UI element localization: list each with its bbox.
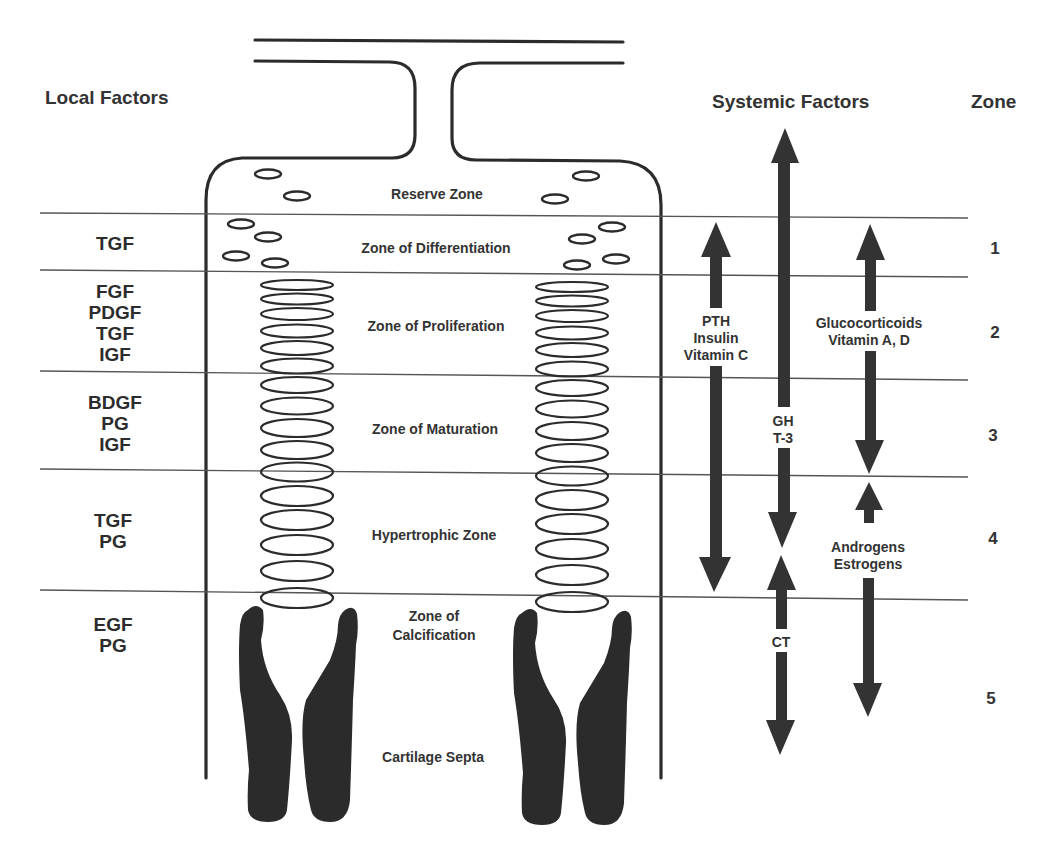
zone-number-2: 2 [990,324,999,341]
local-factor: IGF [70,344,160,365]
local-factor: TGF [70,233,160,254]
zone-number-5: 5 [986,690,995,707]
systemic-factor: Glucocorticoids [816,315,923,332]
systemic-factor: Androgens [831,539,905,556]
zone-name-differentiation: Zone of Differentiation [361,239,510,258]
ct-double-arrow [766,555,796,755]
local-factor: PG [70,413,160,434]
local-factor: PG [68,531,158,552]
zone-name-calcification-line2: Calcification [392,626,475,645]
systemic-factor: Insulin [684,330,748,347]
zone-dividers [40,213,968,600]
zone-name-reserve: Reserve Zone [391,185,483,204]
zone-heading: Zone [971,92,1016,111]
systemic-label-glucocorticoids: Glucocorticoids Vitamin A, D [816,315,923,349]
zone-number-1: 1 [990,240,999,257]
zone-name-calcification-line1: Zone of [392,607,475,626]
local-factor: EGF [68,614,158,635]
local-factors-heading: Local Factors [45,88,169,107]
local-factors-zone-4: TGF PG [68,510,158,552]
local-factor: PDGF [70,302,160,323]
pth-double-arrow [699,222,731,592]
zone-name-calcification: Zone of Calcification [392,607,475,645]
zone-name-proliferation: Zone of Proliferation [368,317,505,336]
zone-number-3: 3 [988,427,997,444]
systemic-factor: T-3 [773,430,794,447]
zone-name-maturation: Zone of Maturation [372,420,498,439]
local-factor: TGF [70,323,160,344]
local-factor: TGF [68,510,158,531]
systemic-label-ct: CT [772,634,791,651]
glucocorticoids-double-arrow [855,224,885,474]
systemic-factors-heading: Systemic Factors [712,92,869,111]
systemic-factor: PTH [684,313,748,330]
chondrocyte-column-right [536,282,608,612]
local-factor: IGF [70,434,160,455]
gh-double-arrow [768,128,799,548]
local-factors-zone-3: BDGF PG IGF [70,392,160,455]
local-factors-zone-1: TGF [70,233,160,254]
cartilage-septa-label: Cartilage Septa [382,748,484,767]
systemic-factor: Vitamin A, D [816,332,923,349]
local-factor: BDGF [70,392,160,413]
systemic-label-pth-insulin-vitc: PTH Insulin Vitamin C [684,313,748,364]
chondrocyte-column-left [261,280,333,608]
local-factors-zone-5: EGF PG [68,614,158,656]
systemic-factor: CT [772,634,791,651]
systemic-factor: Estrogens [831,556,905,573]
growth-plate-outline [206,40,661,778]
local-factor: PG [68,635,158,656]
zone-number-4: 4 [988,530,997,547]
local-factors-zone-2: FGF PDGF TGF IGF [70,281,160,365]
zone-name-hypertrophic: Hypertrophic Zone [372,526,496,545]
systemic-factor: GH [773,413,794,430]
systemic-label-gh-t3: GH T-3 [773,413,794,447]
systemic-factor: Vitamin C [684,347,748,364]
systemic-label-androgens-estrogens: Androgens Estrogens [831,539,905,573]
local-factor: FGF [70,281,160,302]
